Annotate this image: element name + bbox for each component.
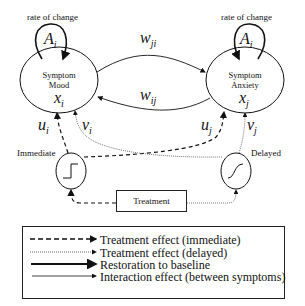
delayed-to-anxiety [239,113,245,153]
immediate-label: Immediate [17,149,55,158]
rate-of-change-label-left: rate of change [27,13,78,22]
mood-node-label: Symptom Mood [34,70,84,90]
immediate-to-mood [57,113,68,153]
x-j-label: xj [239,90,249,109]
v-sub: i [89,125,92,136]
a-var: A [44,30,54,47]
delayed-filter [221,153,251,189]
treatment-box: Treatment [116,190,187,212]
x-i-label: xi [54,90,64,109]
mood-line1: Symptom [34,70,84,80]
v-sub: j [254,125,257,136]
w-var: w [140,29,151,46]
w-ij-label: wij [140,87,156,106]
a-var: A [240,30,250,47]
u-sub: j [209,125,212,136]
legend-label: Treatment effect (immediate) [100,233,241,247]
step-icon [63,164,78,178]
w-var: w [140,86,151,103]
delayed-to-mood [75,111,222,157]
legend: Treatment effect (immediate) Treatment e… [22,226,285,299]
a-i-label-right: Ai [240,31,253,50]
u-var: u [201,116,209,133]
anxiety-node-label: Symptom Anxiety [219,70,271,90]
delayed-label: Delayed [251,149,281,158]
u-j-label: uj [201,117,212,136]
legend-item-immediate: Treatment effect (immediate) [23,233,284,247]
x-sub: j [246,98,249,109]
legend-label: Interaction effect (between symptoms) [100,270,285,284]
a-i-label-left: Ai [44,31,57,50]
v-j-label: vj [247,117,257,136]
v-i-label: vi [82,117,92,136]
x-sub: i [61,98,64,109]
rate-of-change-label-right: rate of change [221,13,272,22]
u-sub: i [46,125,49,136]
treatment-to-immediate [71,190,116,203]
w-ji-label: wji [140,30,156,49]
edge-w-ji [97,55,205,72]
w-sub: ij [151,95,157,106]
anxiety-line1: Symptom [219,70,271,80]
a-sub: i [54,39,57,50]
u-i-label: ui [38,117,49,136]
u-var: u [38,116,46,133]
sigmoid-icon [228,164,243,178]
treatment-to-delayed [187,190,236,203]
legend-item-interaction: Interaction effect (between symptoms) [23,270,284,284]
w-sub: ji [151,38,157,49]
a-sub: i [250,39,253,50]
